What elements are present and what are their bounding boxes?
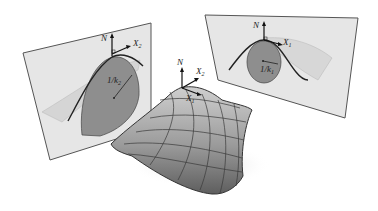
left-normal-label: N — [101, 34, 107, 43]
label-text: 1/k — [260, 64, 271, 74]
label-subscript: 2 — [139, 43, 142, 49]
right-direction-label: X1 — [283, 38, 292, 48]
arrow-head-icon — [180, 67, 184, 72]
left-direction-label: X2 — [133, 39, 142, 49]
center-x1-label: X1 — [186, 94, 195, 104]
right-normal-label: N — [253, 21, 259, 30]
center-x2-label: X2 — [196, 67, 205, 77]
label-subscript: 2 — [118, 80, 121, 86]
label-subscript: 1 — [192, 98, 195, 104]
curvature-diagram — [0, 0, 378, 211]
label-subscript: 1 — [289, 42, 292, 48]
left-radius-label: 1/k2 — [107, 76, 121, 86]
circle-center — [262, 60, 264, 62]
right-radius-label: 1/k1 — [260, 65, 274, 75]
center-normal-label: N — [177, 58, 183, 67]
osculating-circle-k1 — [247, 41, 281, 83]
label-text: 1/k — [107, 75, 118, 85]
label-subscript: 1 — [271, 69, 274, 75]
label-subscript: 2 — [202, 71, 205, 77]
circle-center — [113, 97, 115, 99]
